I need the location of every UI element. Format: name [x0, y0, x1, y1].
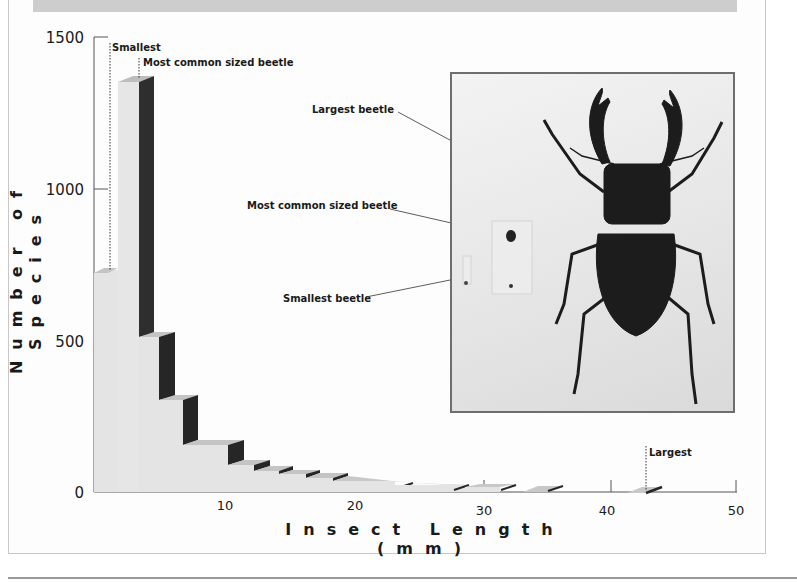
x-tick-10: 10: [217, 498, 234, 513]
beetle-illustration: [452, 74, 733, 411]
most-common-annotation: Most common sized beetle: [143, 57, 294, 68]
x-tick-50: 50: [728, 503, 745, 518]
smallest-annotation: Smallest: [112, 42, 161, 53]
x-axis-title: Insect Length (mm): [240, 520, 610, 558]
smallest-beetle-icon: [464, 281, 468, 285]
largest-beetle-label: Largest beetle: [312, 104, 394, 115]
largest-annotation: Largest: [649, 447, 692, 458]
x-tick-40: 40: [599, 503, 616, 518]
x-tick-30: 30: [476, 503, 493, 518]
x-tick-20: 20: [347, 498, 364, 513]
y-tick-1000: 1000: [46, 181, 84, 199]
y-tick-labels: 1500 1000 500 0: [46, 29, 84, 502]
y-tick-500: 500: [55, 333, 84, 351]
stag-beetle-icon: [544, 88, 722, 404]
smallest-beetle-label: Smallest beetle: [283, 293, 371, 304]
common-beetle-icon: [506, 230, 516, 242]
y-tick-0: 0: [74, 484, 84, 502]
most-common-beetle-label: Most common sized beetle: [247, 200, 398, 211]
beetle-photo: [450, 72, 735, 413]
y-axis-title: Number of Species: [7, 157, 45, 397]
smallest-beetle-card: [463, 256, 471, 284]
x-tick-labels: 10 20 30 40 50: [217, 498, 745, 518]
y-tick-1500: 1500: [46, 29, 84, 47]
